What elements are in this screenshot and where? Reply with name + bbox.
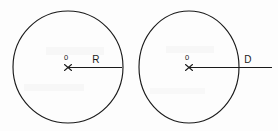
left-circle-group: 0 R bbox=[13, 11, 123, 123]
right-circle-group: 0 D bbox=[139, 11, 272, 123]
left-measure-label-r: R bbox=[92, 54, 99, 65]
geometry-figure: 0 R 0 D bbox=[0, 0, 278, 131]
right-measure-label-d: D bbox=[244, 54, 251, 65]
right-center-label: 0 bbox=[185, 53, 189, 62]
left-center-label: 0 bbox=[64, 53, 68, 62]
figure-canvas: 0 R 0 D bbox=[0, 0, 278, 131]
